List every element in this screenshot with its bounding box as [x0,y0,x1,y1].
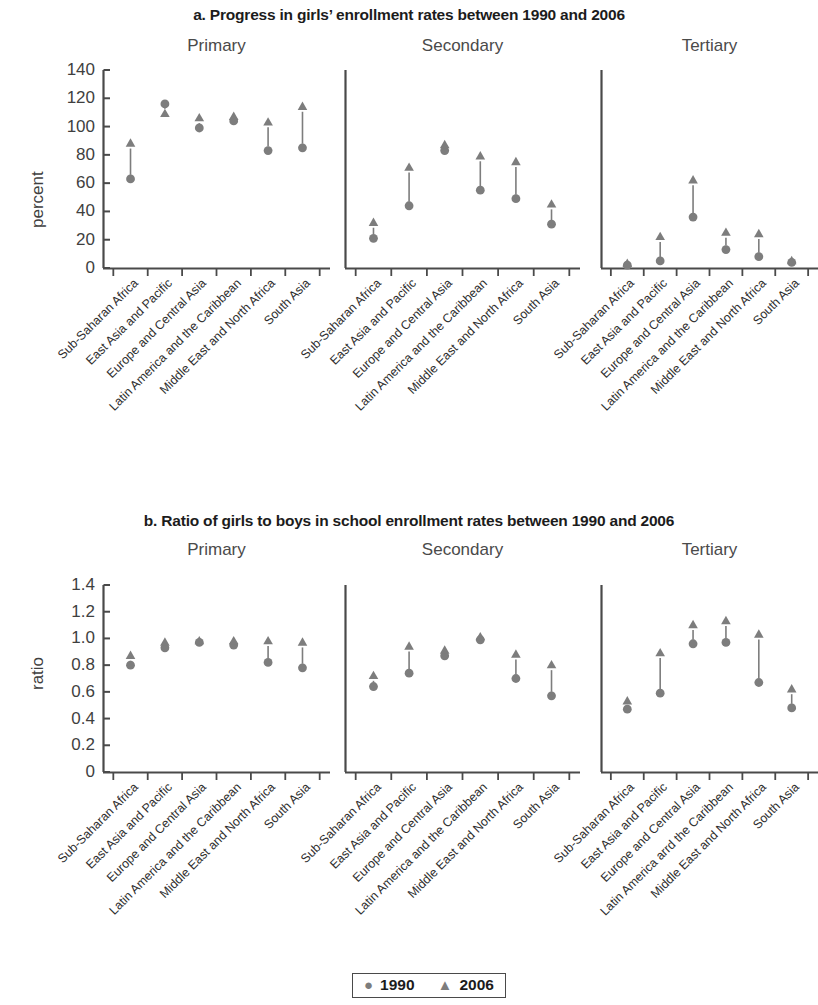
data-point-group [404,641,414,677]
y-tick-label: 0 [33,259,95,276]
legend-label-1990: 1990 [380,977,414,993]
data-point-group [126,651,136,670]
plot-b-secondary [345,585,592,786]
data-point-group [195,636,205,647]
data-point-group [229,111,239,125]
data-point-group [547,199,557,228]
plot-b-tertiary [601,585,818,786]
data-point-group [263,117,273,155]
data-point-group [298,637,308,672]
data-point-group [126,138,136,183]
data-point-group [476,151,486,195]
data-point-group [754,229,764,261]
plot-a-primary [103,70,342,282]
data-point-group [721,227,731,254]
data-point-group [655,648,665,698]
y-tick-label: 0.6 [33,683,95,700]
data-point-group [440,140,450,155]
data-point-group [229,636,239,650]
chart-a-title: a. Progress in girls’ enrollment rates b… [0,6,818,24]
data-point-group [195,113,205,133]
data-point-group [787,684,797,712]
y-tick-label: 0 [33,763,95,780]
panel-header-tertiary: Tertiary [541,36,818,56]
y-tick-label: 0.8 [33,656,95,673]
plot-a-secondary [345,70,592,282]
y-tick-label: 40 [33,202,95,219]
data-point-group [623,259,633,270]
data-point-group [160,637,170,652]
legend-circle-icon: ● [364,977,373,992]
data-point-group [721,616,731,647]
data-point-group [655,232,665,266]
y-tick-label: 1.2 [33,603,95,620]
y-tick-label: 100 [33,118,95,135]
y-tick-label: 0.2 [33,736,95,753]
data-point-group [476,632,486,644]
data-point-group [511,649,521,683]
data-point-group [623,696,633,714]
data-point-group [404,162,414,210]
legend: ● 1990 ▲ 2006 [352,973,506,998]
y-tick-label: 80 [33,146,95,163]
legend-label-2006: 2006 [459,977,493,993]
y-tick-label: 60 [33,174,95,191]
y-tick-label: 140 [33,61,95,78]
panel-header-tertiary: Tertiary [541,540,818,560]
figure-root: a. Progress in girls’ enrollment rates b… [0,0,818,1005]
data-point-group [547,660,557,700]
data-point-group [263,636,273,667]
data-point-group [160,100,170,118]
y-tick-label: 1.4 [33,576,95,593]
legend-triangle-icon: ▲ [438,977,453,992]
y-tick-label: 0.4 [33,710,95,727]
y-tick-label: 20 [33,231,95,248]
data-point-group [688,175,698,221]
plot-b-primary [103,585,342,786]
data-point-group [369,671,379,691]
y-tick-label: 1.0 [33,629,95,646]
data-point-group [511,157,521,203]
data-point-group [754,629,764,687]
plot-a-tertiary [601,70,818,282]
data-point-group [440,645,450,660]
y-tick-label: 120 [33,89,95,106]
data-point-group [787,256,797,267]
data-point-group [298,102,308,153]
data-point-group [688,620,698,648]
data-point-group [369,218,379,243]
